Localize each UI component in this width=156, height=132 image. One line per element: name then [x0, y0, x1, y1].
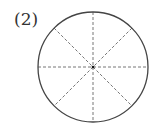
- center-dot: [92, 66, 95, 69]
- divided-circle-diagram: [0, 0, 156, 132]
